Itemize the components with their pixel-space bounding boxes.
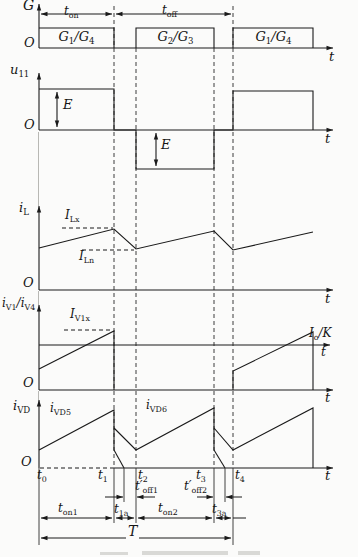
t-1a-label: t1a xyxy=(114,503,129,516)
period-t-label: T xyxy=(126,524,139,539)
u11-origin-label: O xyxy=(24,118,35,132)
t-3a-label: t3a xyxy=(212,503,227,516)
u11-t-axis-label: t xyxy=(325,132,330,146)
iv-t-axis-label: t xyxy=(325,391,330,405)
t1-label: t1 xyxy=(98,469,108,482)
i-ln-label: ILn xyxy=(79,250,94,263)
t-off-label: toff xyxy=(162,4,177,17)
panel-u11 xyxy=(37,73,333,169)
i-lx-label: ILx xyxy=(65,209,79,222)
t-on2-label: ton2 xyxy=(158,502,178,515)
g-axis-label: G xyxy=(23,0,34,13)
ivd-origin-label: O xyxy=(21,455,32,469)
panel-ivd xyxy=(37,400,333,470)
ivd-axis-label: iVD xyxy=(13,399,30,413)
t-off1-label: t′off1 xyxy=(135,480,158,493)
io-over-k-label: Io/K xyxy=(309,327,332,340)
il-axis-label: iL xyxy=(19,201,29,215)
e-positive-label: E xyxy=(63,98,73,112)
ivd6-label: iVD6 xyxy=(146,399,167,412)
g-pulse2-label: G2/G3 xyxy=(149,30,202,44)
i-v1x-label: IV1x xyxy=(70,308,90,321)
caption-remnant xyxy=(100,551,260,555)
dashed-time-markers xyxy=(114,6,233,468)
t-off2-label: t′off2 xyxy=(184,480,207,493)
ivd-t-axis-label: t xyxy=(325,469,330,483)
t-on1-label: ton1 xyxy=(58,502,78,515)
iv1-iv4-axis-label: iV1/iV4 xyxy=(2,297,35,310)
waveform-figure: G ton toff G1/G4 G2/G3 G1/G4 O t u11 E E… xyxy=(0,0,358,557)
t0-label: t0 xyxy=(37,469,47,482)
g-t-axis-label: t xyxy=(329,50,334,64)
il-origin-label: O xyxy=(23,276,34,290)
iv-origin-label: O xyxy=(23,376,34,390)
g-pulse3-label: G1/G4 xyxy=(247,30,300,44)
t4-label: t4 xyxy=(235,469,245,482)
il-t-axis-label: t xyxy=(325,292,330,306)
e-negative-label: E xyxy=(161,138,171,152)
toff-dimension-arrows xyxy=(105,495,242,499)
u11-axis-label: u11 xyxy=(10,63,29,77)
g-origin-label: O xyxy=(24,36,35,50)
ivd5-label: iVD5 xyxy=(50,402,71,415)
g-pulse1-label: G1/G4 xyxy=(50,30,103,44)
t-on-label: ton xyxy=(64,5,79,18)
diagram-canvas xyxy=(0,0,358,557)
iok-t-axis-label: t xyxy=(321,346,326,359)
